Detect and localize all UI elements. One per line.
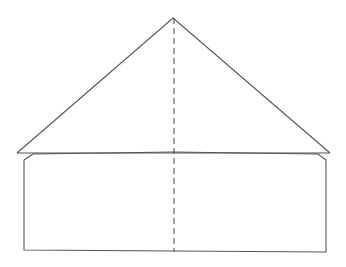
- body-rectangle: [24, 160, 326, 252]
- origami-diagram: [0, 0, 346, 267]
